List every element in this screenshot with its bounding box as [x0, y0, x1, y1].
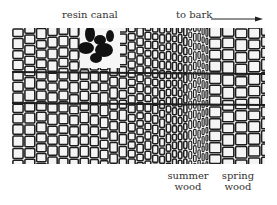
spring-wood-label: spring wood [216, 170, 260, 192]
summer-wood-label-line1: summer [166, 170, 210, 181]
to-bark-label: to bark [176, 9, 212, 20]
summer-wood-label: summer wood [166, 170, 210, 192]
wood-cross-section-micrograph [12, 28, 265, 164]
summer-wood-label-line2: wood [166, 181, 210, 192]
tracheid-cells-image [12, 28, 265, 164]
spring-wood-label-line1: spring [216, 170, 260, 181]
spring-wood-label-line2: wood [216, 181, 260, 192]
arrow-right-icon [211, 15, 263, 23]
resin-canal-label: resin canal [62, 9, 118, 20]
